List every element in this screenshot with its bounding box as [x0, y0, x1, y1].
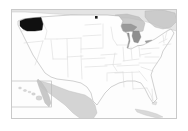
island-hawaii: [36, 96, 42, 100]
island-maui: [32, 93, 36, 95]
highlighted-states: [20, 18, 43, 32]
island-kauai: [19, 87, 22, 89]
state-washington-highlight: [20, 18, 43, 32]
map-thumbnail: Map of the United States with Washington…: [0, 0, 188, 131]
united-states-map: [11, 9, 177, 119]
lake-huron: [132, 31, 141, 43]
island-molokai: [28, 91, 31, 93]
map-frame: [11, 9, 177, 119]
hawaii-islands: [19, 87, 43, 100]
map-markers: [95, 16, 98, 19]
point-marker-minnesota: [95, 16, 98, 19]
cuba-region: [135, 109, 163, 118]
island-oahu: [23, 89, 26, 91]
